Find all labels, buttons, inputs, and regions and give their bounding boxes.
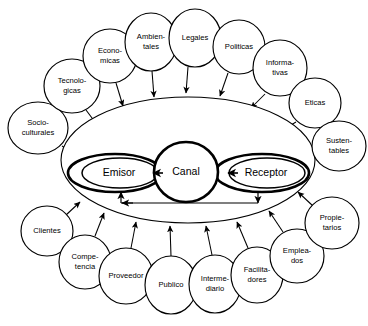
environment-factor-label-socio-culturales: culturales — [22, 128, 55, 137]
environment-factor-label-informa-tivas: tivas — [272, 68, 288, 77]
communication-model-diagram: EmisorReceptorCanal Socio-culturalesTecn… — [0, 0, 368, 326]
connector-arrow-legales — [186, 67, 188, 93]
stakeholder-label-clientes: Clientes — [33, 226, 61, 235]
connector-arrow-politicas — [220, 73, 228, 96]
connector-arrow-facilita-dores — [237, 222, 248, 248]
stakeholder-label-interme-diario: Interme- — [201, 274, 230, 283]
connector-arrow-compe-tencia — [95, 213, 104, 236]
stakeholder-label-publico: Publico — [159, 280, 184, 289]
stakeholder-node-propie-tarios[interactable]: Propie-tarios — [305, 197, 359, 249]
environment-factor-node-eticas[interactable]: Eticas — [289, 78, 341, 128]
environment-factor-label-eticas: Eticas — [305, 98, 326, 107]
environment-factor-label-informa-tivas: Informa- — [266, 58, 295, 67]
environment-factor-label-econo-micas: micas — [100, 56, 120, 65]
stakeholder-label-facilita-dores: Facilita- — [244, 265, 271, 274]
core-receiver-label: Receptor — [245, 166, 288, 178]
environment-factor-label-socio-culturales: Socio- — [27, 118, 49, 127]
connector-arrow-interme-diario — [206, 226, 212, 255]
connector-arrow-publico — [170, 226, 171, 256]
connector-arrow-clientes — [66, 202, 80, 215]
stakeholder-node-proveedor[interactable]: Proveedor — [99, 248, 153, 304]
stakeholder-label-propie-tarios: Propie- — [320, 213, 345, 222]
environment-factor-label-tecnolo-gicas: Tecnolo- — [58, 76, 87, 85]
stakeholder-label-interme-diario: diario — [206, 284, 225, 293]
environment-factor-label-tecnolo-gicas: gicas — [63, 86, 81, 95]
stakeholder-label-proveedor: Proveedor — [108, 271, 144, 280]
stakeholder-label-compe-tencia: Compe- — [71, 252, 98, 261]
core-channel-label: Canal — [172, 165, 199, 177]
connector-arrow-proveedor — [131, 222, 136, 248]
core-sender[interactable]: Emisor — [68, 154, 162, 192]
environment-factor-label-econo-micas: Econo- — [98, 46, 123, 55]
environment-factor-label-ambien-tales: Ambien- — [137, 32, 166, 41]
stakeholder-label-facilita-dores: dores — [248, 275, 267, 284]
stakeholder-label-emplea-dos: dos — [291, 256, 303, 265]
environment-factor-label-susten-tables: tables — [329, 146, 349, 155]
core-sender-label: Emisor — [103, 166, 136, 178]
environment-factor-label-susten-tables: Susten- — [326, 136, 353, 145]
environment-factor-label-ambien-tales: tales — [143, 42, 159, 51]
core-channel[interactable]: Canal — [154, 142, 218, 202]
diagram-canvas: EmisorReceptorCanal Socio-culturalesTecn… — [0, 0, 368, 326]
connector-arrow-ambien-tales — [152, 71, 154, 97]
stakeholder-label-propie-tarios: tarios — [323, 223, 342, 232]
connector-arrow-econo-micas — [116, 83, 123, 106]
connector-arrow-emplea-dos — [269, 211, 283, 232]
environment-factor-node-legales[interactable]: Legales — [169, 9, 221, 67]
environment-factor-node-susten-tables[interactable]: Susten-tables — [312, 121, 366, 171]
environment-factor-label-politicas: Politicas — [225, 42, 253, 51]
stakeholder-label-emplea-dos: Emplea- — [283, 246, 312, 255]
stakeholder-label-compe-tencia: tencia — [75, 262, 96, 271]
environment-factor-label-legales: Legales — [182, 33, 209, 42]
connector-arrow-propie-tarios — [298, 192, 313, 206]
